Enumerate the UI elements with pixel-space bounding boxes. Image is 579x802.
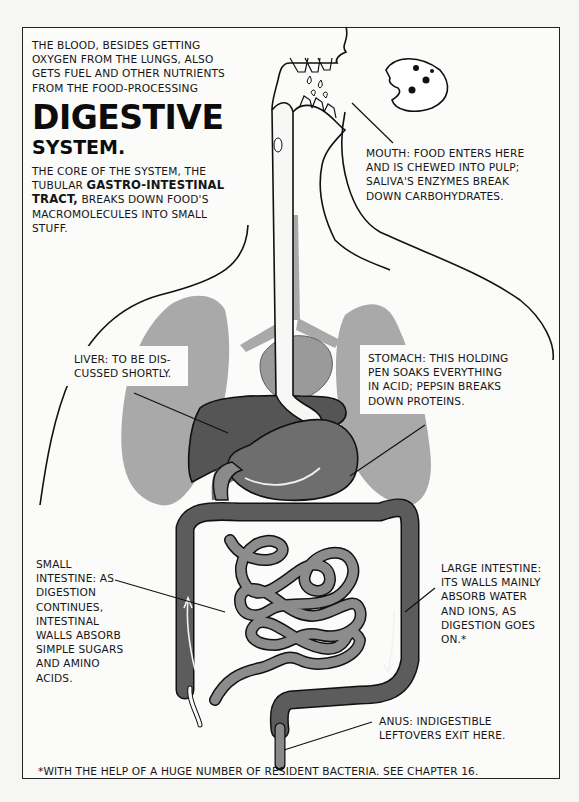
upper-teeth bbox=[290, 58, 332, 72]
left-lung bbox=[121, 296, 229, 506]
title-system: SYSTEM. bbox=[32, 136, 125, 158]
label-liver: LIVER: TO BE DIS-CUSSED SHORTLY. bbox=[66, 346, 188, 386]
label-mouth: MOUTH: FOOD ENTERS HERE AND IS CHEWED IN… bbox=[366, 146, 546, 203]
title-digestive: DIGESTIVE bbox=[32, 100, 223, 136]
intro-lead-text: THE BLOOD, BESIDES GETTING OXYGEN FROM T… bbox=[32, 38, 242, 95]
colon-arrow-down bbox=[388, 610, 394, 670]
intro-body-text: THE CORE OF THE SYSTEM, THE TUBULAR GAST… bbox=[32, 164, 232, 235]
cookie-icon bbox=[386, 59, 448, 112]
label-stomach: STOMACH: THIS HOLDING PEN SOAKS EVERYTHI… bbox=[360, 345, 524, 414]
footnote: *WITH THE HELP OF A HUGE NUMBER OF RESID… bbox=[38, 764, 558, 778]
label-large-intestine: LARGE INTESTINE: ITS WALLS MAINLY ABSORB… bbox=[441, 561, 551, 646]
label-small-intestine: SMALL INTESTINE: AS DIGESTION CONTINUES,… bbox=[36, 557, 132, 685]
heart bbox=[260, 336, 332, 401]
label-anus: ANUS: INDIGESTIBLE LEFTOVERS EXIT HERE. bbox=[379, 714, 519, 742]
anus-leader bbox=[284, 722, 372, 750]
face-profile bbox=[272, 27, 347, 110]
small-intestine bbox=[215, 540, 361, 700]
saliva-drops bbox=[307, 76, 327, 98]
mouth-leader bbox=[352, 103, 393, 143]
lower-teeth bbox=[300, 96, 336, 118]
